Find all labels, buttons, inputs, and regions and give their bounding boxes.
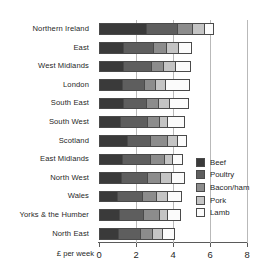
bar-segment-beef[interactable] — [100, 136, 128, 146]
legend-item[interactable]: Poultry — [196, 169, 249, 182]
legend-swatch-icon — [196, 196, 205, 205]
bar-segment-poultry[interactable] — [122, 173, 148, 183]
bar-segment-poultry[interactable] — [124, 43, 154, 53]
category-label: East — [0, 39, 94, 58]
bar-segment-lamb[interactable] — [176, 62, 190, 72]
x-axis-tick — [247, 243, 248, 247]
bar-row — [99, 113, 247, 132]
bar-segment-lamb[interactable] — [179, 43, 191, 53]
bar-segment-beef[interactable] — [100, 210, 120, 220]
bar-segment-bacon-ham[interactable] — [143, 192, 157, 202]
x-axis-title: £ per week — [0, 249, 99, 258]
legend-swatch-icon — [196, 208, 205, 217]
bar-segment-beef[interactable] — [100, 229, 119, 239]
bar-segment-bacon-ham[interactable] — [147, 99, 159, 109]
stacked-bar[interactable] — [99, 116, 185, 128]
legend: BeefPoultryBacon/hamPorkLamb — [196, 156, 249, 219]
bar-segment-pork[interactable] — [156, 80, 166, 90]
stacked-bar[interactable] — [99, 79, 190, 91]
bar-segment-beef[interactable] — [100, 43, 124, 53]
stacked-bar[interactable] — [99, 135, 187, 147]
bar-segment-pork[interactable] — [165, 155, 173, 165]
bar-segment-pork[interactable] — [161, 173, 172, 183]
bar-segment-bacon-ham[interactable] — [154, 43, 167, 53]
bar-segment-pork[interactable] — [168, 136, 178, 146]
bar-segment-beef[interactable] — [100, 80, 123, 90]
bar-segment-beef[interactable] — [100, 155, 123, 165]
bar-segment-poultry[interactable] — [128, 136, 151, 146]
bar-segment-bacon-ham[interactable] — [145, 80, 156, 90]
bar-segment-beef[interactable] — [100, 99, 124, 109]
bar-segment-poultry[interactable] — [123, 155, 151, 165]
stacked-bar[interactable] — [99, 209, 181, 221]
bar-segment-pork[interactable] — [157, 192, 168, 202]
bar-segment-pork[interactable] — [193, 24, 206, 34]
legend-swatch-icon — [196, 183, 205, 192]
bar-segment-lamb[interactable] — [170, 99, 188, 109]
stacked-bar[interactable] — [99, 61, 191, 73]
legend-label: Pork — [210, 196, 226, 205]
bar-segment-lamb[interactable] — [205, 24, 212, 34]
category-label: South East — [0, 94, 94, 113]
bar-segment-pork[interactable] — [160, 117, 168, 127]
bar-row — [99, 132, 247, 151]
stacked-bar[interactable] — [99, 23, 214, 35]
bar-segment-bacon-ham[interactable] — [144, 210, 159, 220]
bar-segment-lamb[interactable] — [163, 229, 174, 239]
bar-segment-pork[interactable] — [167, 43, 179, 53]
legend-item[interactable]: Pork — [196, 194, 249, 207]
bar-segment-lamb[interactable] — [173, 155, 182, 165]
bar-segment-lamb[interactable] — [172, 173, 184, 183]
legend-item[interactable]: Bacon/ham — [196, 181, 249, 194]
bar-segment-lamb[interactable] — [178, 136, 186, 146]
bar-segment-beef[interactable] — [100, 24, 147, 34]
bar-segment-beef[interactable] — [100, 117, 121, 127]
legend-item[interactable]: Beef — [196, 156, 249, 169]
x-axis-tick-label: 2 — [133, 249, 138, 260]
bar-segment-pork[interactable] — [164, 62, 176, 72]
legend-label: Lamb — [210, 208, 230, 217]
bar-segment-lamb[interactable] — [168, 192, 182, 202]
bar-segment-bacon-ham[interactable] — [148, 173, 162, 183]
bar-segment-poultry[interactable] — [147, 24, 178, 34]
bar-row — [99, 57, 247, 76]
bar-segment-bacon-ham[interactable] — [148, 117, 160, 127]
bar-segment-beef[interactable] — [100, 62, 124, 72]
bar-segment-lamb[interactable] — [168, 117, 184, 127]
legend-item[interactable]: Lamb — [196, 206, 249, 219]
bar-segment-bacon-ham[interactable] — [151, 155, 165, 165]
legend-label: Beef — [210, 158, 226, 167]
bar-segment-pork[interactable] — [153, 229, 163, 239]
bar-segment-poultry[interactable] — [121, 117, 148, 127]
bar-segment-beef[interactable] — [100, 173, 122, 183]
bar-segment-poultry[interactable] — [119, 229, 141, 239]
x-axis-tick-label: 8 — [244, 249, 249, 260]
bar-segment-bacon-ham[interactable] — [151, 136, 168, 146]
stacked-bar[interactable] — [99, 154, 183, 166]
bar-segment-poultry[interactable] — [120, 210, 144, 220]
bar-segment-lamb[interactable] — [168, 210, 181, 220]
bar-segment-pork[interactable] — [159, 99, 170, 109]
legend-swatch-icon — [196, 170, 205, 179]
bar-segment-bacon-ham[interactable] — [152, 62, 165, 72]
category-axis-labels: Northern IrelandEastWest MidlandsLondonS… — [0, 20, 94, 243]
x-axis-tick — [99, 243, 100, 247]
bar-row — [99, 20, 247, 39]
bar-segment-pork[interactable] — [160, 210, 168, 220]
stacked-bar[interactable] — [99, 98, 189, 110]
bar-segment-poultry[interactable] — [118, 192, 143, 202]
category-label: Wales — [0, 187, 94, 206]
bar-segment-poultry[interactable] — [123, 80, 146, 90]
bar-segment-poultry[interactable] — [124, 99, 148, 109]
stacked-bar[interactable] — [99, 42, 192, 54]
bar-segment-poultry[interactable] — [124, 62, 152, 72]
stacked-bar[interactable] — [99, 172, 185, 184]
bar-segment-beef[interactable] — [100, 192, 118, 202]
stacked-bar[interactable] — [99, 228, 175, 240]
bar-segment-bacon-ham[interactable] — [178, 24, 193, 34]
bar-segment-lamb[interactable] — [166, 80, 189, 90]
category-label: London — [0, 76, 94, 95]
x-axis-tick — [173, 243, 174, 247]
stacked-bar[interactable] — [99, 191, 182, 203]
bar-segment-bacon-ham[interactable] — [141, 229, 154, 239]
